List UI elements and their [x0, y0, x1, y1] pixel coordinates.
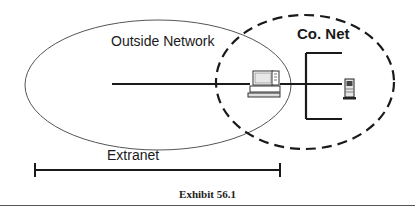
computer-icon [248, 71, 280, 97]
company-network-label: Co. Net [297, 25, 350, 42]
caption-divider [0, 205, 415, 206]
exhibit-caption: Exhibit 56.1 [0, 188, 415, 200]
extranet-span [35, 163, 280, 177]
server-tower-icon [343, 79, 356, 100]
outside-network-label: Outside Network [111, 33, 214, 49]
network-diagram [0, 0, 415, 209]
extranet-label: Extranet [107, 147, 159, 163]
